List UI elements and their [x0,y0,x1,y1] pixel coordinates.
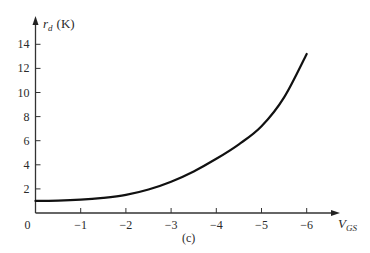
y-tick-label: 6 [24,134,30,148]
y-axis-arrow-icon [33,16,39,25]
x-tick-label: −1 [74,218,87,232]
chart-canvas: 2468101214 0−1−2−3−4−5−6 rd(K) VGS (c) [0,0,370,253]
y-tick-label: 10 [18,86,30,100]
x-tick-label: −4 [210,218,223,232]
y-tick-label: 12 [18,61,30,75]
data-curve [36,54,307,201]
figure-caption: (c) [182,231,195,245]
x-axis-label: VGS [338,216,357,233]
y-tick-label: 14 [18,37,30,51]
y-tick-label: 4 [24,158,30,172]
x-tick-label: −2 [120,218,133,232]
x-ticks: 0−1−2−3−4−5−6 [25,208,314,232]
x-tick-label: −6 [300,218,313,232]
x-tick-label: 0 [25,218,31,232]
y-ticks: 2468101214 [18,37,41,196]
y-tick-label: 2 [24,182,30,196]
x-tick-label: −3 [165,218,178,232]
y-axis-label: rd(K) [43,16,75,33]
y-tick-label: 8 [24,110,30,124]
x-tick-label: −5 [255,218,268,232]
